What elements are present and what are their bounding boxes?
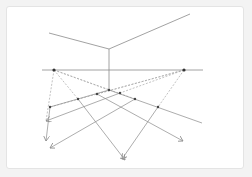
- perspective-diagram: [0, 0, 252, 177]
- roof-edge-right: [109, 14, 190, 49]
- right-vanishing-point: [182, 68, 185, 71]
- left-vanishing-point: [52, 68, 55, 71]
- roof-edge-left: [49, 33, 109, 49]
- grid-lines: [46, 90, 202, 160]
